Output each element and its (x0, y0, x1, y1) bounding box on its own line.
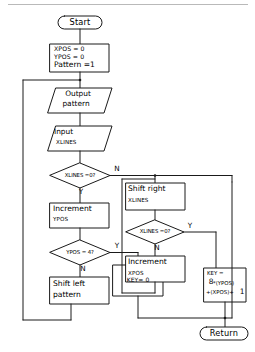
node-key-formula-shape (204, 268, 246, 302)
node-dec-xlines-right-shape (126, 220, 184, 244)
node-init-shape (50, 44, 109, 72)
node-dec-ypos-shape (50, 240, 110, 265)
node-start-shape (58, 16, 102, 29)
flowchart-canvas (0, 0, 255, 352)
node-increment-xpos-shape (126, 256, 185, 282)
node-return-shape (200, 327, 248, 340)
junction-shift-right-tap (154, 174, 157, 177)
node-input-xlines-shape (48, 126, 112, 151)
node-shift-left-shape (50, 277, 109, 304)
node-shift-right-shape (126, 183, 185, 210)
node-dec-xlines-left-shape (50, 163, 110, 188)
node-increment-ypos-shape (50, 203, 109, 228)
node-output-pattern-shape (48, 88, 112, 113)
